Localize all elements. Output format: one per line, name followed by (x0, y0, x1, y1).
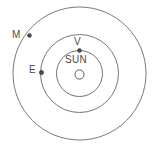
earth-marker (39, 70, 43, 74)
venus-marker (78, 49, 82, 53)
mars-label: M (12, 30, 21, 40)
earth-label: E (29, 65, 36, 75)
sun-label: SUN (65, 55, 87, 65)
orbit-diagram-canvas (0, 0, 161, 163)
mars-marker (28, 34, 32, 38)
venus-label: V (74, 37, 81, 47)
sun-symbol-circle (75, 70, 84, 79)
orbit-diagram: M E V SUN (0, 0, 161, 163)
